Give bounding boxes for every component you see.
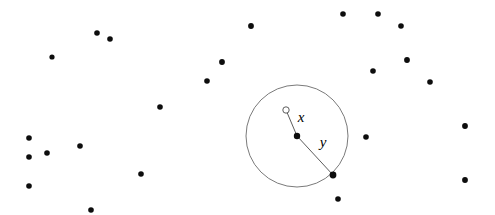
scatter-point [49,54,54,59]
scatter-point [462,123,468,129]
scatter-point [77,143,83,149]
center-point [294,133,300,139]
edge-point [330,172,337,179]
scatter-point [427,79,433,85]
scatter-point [398,23,404,29]
scatter-point [340,11,346,17]
label-y: y [318,134,327,150]
scatter-point [248,23,254,29]
scatter-point [335,196,341,202]
scatter-point [363,134,369,140]
scatter-point [107,36,113,42]
query-point-open [283,107,289,113]
scatter-point [44,150,50,156]
diagram-svg: xy [0,0,495,215]
scatter-point [26,154,32,160]
scatter-point [204,78,210,84]
label-x: x [297,109,305,125]
scatter-point [462,177,468,183]
scatter-point [375,11,381,17]
scatter-point [370,68,376,74]
diagram-canvas: xy [0,0,495,215]
scatter-point [404,57,410,63]
scatter-point [157,104,163,110]
diagram-background [0,0,495,215]
scatter-point [94,30,100,36]
scatter-point [88,207,94,213]
scatter-point [26,135,32,141]
scatter-point [26,183,32,189]
scatter-point [138,171,144,177]
scatter-point [219,59,225,65]
